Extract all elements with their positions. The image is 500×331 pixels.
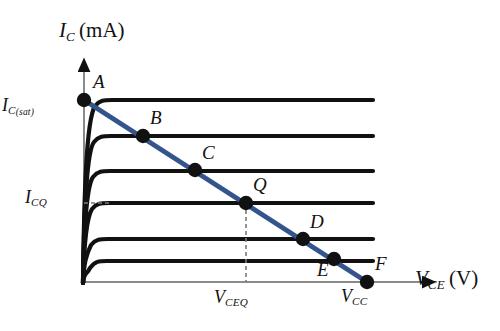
point-Q (239, 196, 253, 210)
point-D (296, 232, 310, 246)
vceq-label: VCEQ (214, 288, 248, 306)
dc-load-line (84, 100, 367, 282)
point-label-D: D (310, 212, 324, 231)
y-axis-unit: (mA) (75, 18, 125, 42)
y-axis-label: IC (mA) (59, 20, 125, 41)
point-C (188, 163, 202, 177)
characteristic-curve-4 (83, 203, 373, 283)
point-B (136, 129, 150, 143)
point-label-C: C (202, 143, 215, 162)
x-axis-unit: (V) (445, 266, 478, 290)
point-label-F: F (375, 254, 387, 273)
load-line-figure: IC (mA) VCE (V) IC(sat) ICQ VCEQ VCC A B… (0, 0, 500, 331)
vcc-label: VCC (341, 287, 367, 305)
icq-label: ICQ (25, 188, 47, 206)
point-label-Q: Q (253, 175, 267, 194)
point-label-E: E (317, 260, 329, 279)
point-label-A: A (93, 72, 105, 91)
x-axis-label: VCE (V) (415, 268, 478, 289)
ic-sat-label: IC(sat) (2, 96, 34, 114)
point-label-B: B (150, 108, 162, 127)
x-axis-symbol: VCE (415, 266, 445, 290)
y-axis-symbol: IC (59, 18, 75, 42)
point-A (77, 93, 91, 107)
dashed-guides (84, 203, 246, 282)
characteristic-curve-3 (83, 171, 373, 283)
